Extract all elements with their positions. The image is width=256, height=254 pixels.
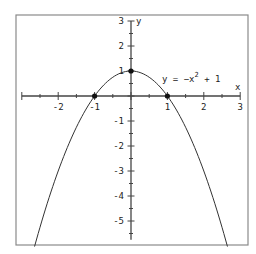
y-tick-label: 2 [119, 41, 124, 51]
plot-frame [16, 15, 248, 245]
parabola-chart: -2-1123321-1-2-3-4-5 x y y = −x2 + 1 [0, 0, 256, 254]
x-axis-label: x [235, 82, 241, 92]
y-tick-label: -2 [113, 141, 124, 151]
y-axis-label: y [136, 16, 142, 26]
axes [22, 21, 240, 240]
x-tick-label: 2 [201, 102, 206, 112]
x-tick-label: 3 [237, 102, 242, 112]
y-tick-label: -1 [113, 116, 124, 126]
key-point [128, 68, 133, 73]
y-tick-label: -5 [113, 216, 124, 226]
y-tick-label: 3 [119, 16, 124, 26]
x-tick-label: -2 [53, 102, 64, 112]
y-tick-label: -3 [113, 166, 124, 176]
equation-label: y = −x2 + 1 [162, 71, 220, 84]
y-tick-label: 1 [119, 66, 124, 76]
x-tick-label: 1 [165, 102, 170, 112]
x-tick-label: -1 [89, 102, 100, 112]
key-point [165, 93, 170, 98]
y-tick-label: -4 [113, 191, 124, 201]
tick-labels: -2-1123321-1-2-3-4-5 [53, 16, 243, 226]
key-point [92, 93, 97, 98]
